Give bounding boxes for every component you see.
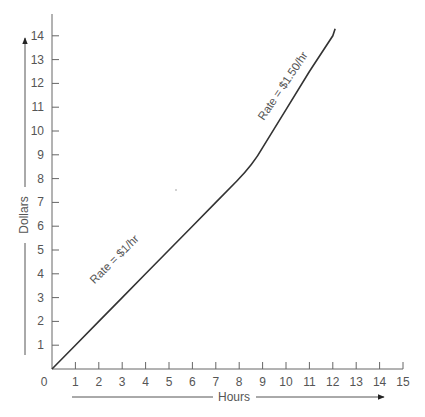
y-tick-label: 14 xyxy=(31,29,45,43)
x-tick-label: 10 xyxy=(279,375,293,389)
rate-1-annotation: Rate = $1/hr xyxy=(87,232,141,286)
x-tick-label: 14 xyxy=(373,375,387,389)
x-tick-label: 6 xyxy=(189,375,196,389)
y-axis-title: Dollars xyxy=(17,196,31,233)
x-tick-label: 1 xyxy=(72,375,79,389)
y-ticks: 1234567891011121314 xyxy=(31,29,59,352)
x-tick-label: 4 xyxy=(142,375,149,389)
y-tick-label: 5 xyxy=(37,243,44,257)
x-tick-label: 9 xyxy=(259,375,266,389)
x-tick-label: 15 xyxy=(396,375,410,389)
x-tick-label: 3 xyxy=(119,375,126,389)
x-tick-label: 13 xyxy=(350,375,364,389)
y-tick-label: 12 xyxy=(31,76,45,90)
x-tick-label: 8 xyxy=(236,375,243,389)
origin-label: 0 xyxy=(41,375,48,389)
x-ticks: 123456789101112131415 xyxy=(72,362,410,389)
y-tick-label: 3 xyxy=(37,291,44,305)
x-tick-label: 2 xyxy=(95,375,102,389)
y-tick-label: 6 xyxy=(37,219,44,233)
y-tick-label: 8 xyxy=(37,172,44,186)
rate-2-annotation: Rate = $1.50/hr xyxy=(255,49,310,122)
y-tick-label: 10 xyxy=(31,124,45,138)
x-axis-title: Hours xyxy=(218,390,250,404)
x-tick-label: 5 xyxy=(166,375,173,389)
x-tick-label: 7 xyxy=(212,375,219,389)
y-tick-label: 4 xyxy=(37,267,44,281)
y-tick-label: 2 xyxy=(37,314,44,328)
x-tick-label: 12 xyxy=(326,375,340,389)
y-tick-label: 7 xyxy=(37,195,44,209)
x-tick-label: 11 xyxy=(303,375,316,389)
scan-speck xyxy=(175,189,177,191)
y-tick-label: 1 xyxy=(37,338,44,352)
y-tick-label: 11 xyxy=(32,100,45,114)
y-tick-label: 9 xyxy=(37,148,44,162)
y-tick-label: 13 xyxy=(31,53,45,67)
line-chart: 1234567891011121314 12345678910111213141… xyxy=(0,0,425,417)
